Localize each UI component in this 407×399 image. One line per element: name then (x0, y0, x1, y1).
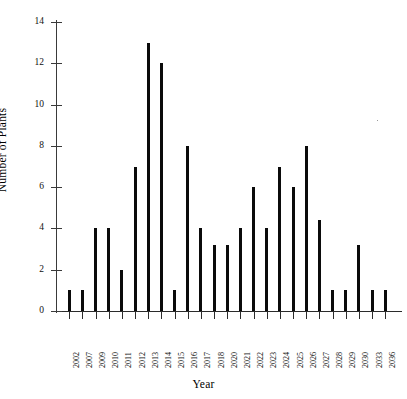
x-tick (122, 312, 123, 319)
bar (226, 245, 229, 311)
bar (199, 228, 202, 311)
bar (371, 290, 374, 311)
x-tick-label: 2025 (297, 352, 305, 368)
x-tick-label: 2021 (244, 352, 252, 368)
bar (252, 187, 255, 311)
x-tick (385, 312, 386, 319)
x-tick-label: 2002 (73, 352, 81, 368)
y-tick-label: 12 (18, 58, 44, 68)
x-tick-label: 2015 (178, 352, 186, 368)
bar (318, 220, 321, 311)
x-tick-label: 2013 (152, 352, 160, 368)
x-tick-label: 2024 (283, 352, 291, 368)
x-tick-label: 2027 (323, 352, 331, 368)
bar (384, 290, 387, 311)
x-tick (319, 312, 320, 319)
x-tick (201, 312, 202, 319)
x-tick-label: 2028 (336, 352, 344, 368)
bar (81, 290, 84, 311)
bar-chart: Number of Plants 02468101214 20022007200… (0, 0, 407, 399)
x-tick-label: 2033 (376, 352, 384, 368)
bar (160, 63, 163, 311)
x-tick-label: 2009 (99, 352, 107, 368)
x-tick (148, 312, 149, 319)
bar (107, 228, 110, 311)
bar (94, 228, 97, 311)
x-axis-title: Year (0, 378, 407, 390)
bar (186, 146, 189, 311)
x-tick (96, 312, 97, 319)
speck-artifact (377, 120, 378, 121)
x-tick (293, 312, 294, 319)
bar (120, 270, 123, 311)
x-tick (109, 312, 110, 319)
x-tick (359, 312, 360, 319)
bar (305, 146, 308, 311)
x-tick-label: 2014 (165, 352, 173, 368)
x-tick-label: 2017 (204, 352, 212, 368)
x-tick-label: 2007 (86, 352, 94, 368)
y-tick-label: 4 (18, 223, 44, 233)
x-tick (82, 312, 83, 319)
x-tick (69, 312, 70, 319)
x-tick (372, 312, 373, 319)
x-tick (188, 312, 189, 319)
bar (134, 167, 137, 312)
bar (239, 228, 242, 311)
x-tick (227, 312, 228, 319)
bar (173, 290, 176, 311)
x-tick-label: 2029 (349, 352, 357, 368)
x-tick-label: 2023 (270, 352, 278, 368)
x-tick-label: 2010 (112, 352, 120, 368)
bar (292, 187, 295, 311)
plot-area (57, 22, 402, 311)
x-tick (333, 312, 334, 319)
y-tick-label: 6 (18, 182, 44, 192)
x-tick (306, 312, 307, 319)
x-tick (346, 312, 347, 319)
x-tick (267, 312, 268, 319)
x-tick (175, 312, 176, 319)
y-tick-label: 0 (18, 306, 44, 316)
bar (357, 245, 360, 311)
bar (344, 290, 347, 311)
bar (331, 290, 334, 311)
x-tick-label: 2018 (218, 352, 226, 368)
y-tick-label: 14 (18, 17, 44, 27)
x-tick (240, 312, 241, 319)
x-tick (135, 312, 136, 319)
x-tick-label: 2036 (389, 352, 397, 368)
x-tick-label: 2016 (191, 352, 199, 368)
y-tick (51, 311, 62, 312)
y-tick-label: 10 (18, 100, 44, 110)
x-tick-label: 2030 (362, 352, 370, 368)
x-tick (254, 312, 255, 319)
bar (68, 290, 71, 311)
x-tick (214, 312, 215, 319)
y-tick-label: 8 (18, 141, 44, 151)
x-tick-label: 2022 (257, 352, 265, 368)
x-tick-label: 2012 (139, 352, 147, 368)
y-tick-label: 2 (18, 265, 44, 275)
bar (147, 43, 150, 311)
bar (213, 245, 216, 311)
x-tick-label: 2020 (231, 352, 239, 368)
x-tick (161, 312, 162, 319)
x-tick (280, 312, 281, 319)
x-tick-label: 2026 (310, 352, 318, 368)
y-axis-title: Number of Plants (0, 108, 8, 192)
x-tick-label: 2011 (125, 352, 133, 368)
bar (265, 228, 268, 311)
bar (278, 167, 281, 312)
